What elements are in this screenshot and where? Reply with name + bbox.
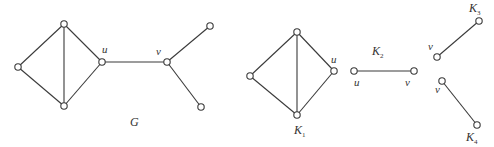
vertex-k1_bottom (294, 112, 300, 118)
vertex-k2_v (411, 68, 417, 74)
graph-label-subscript: 2 (380, 52, 384, 60)
vertex-k2_u (351, 68, 357, 74)
graph-label-K2: K2 (371, 44, 384, 60)
graph-label-subscript: 3 (477, 9, 481, 17)
vertex-k3_top (476, 18, 482, 24)
edge-g_v-g_tr (167, 26, 210, 62)
vertex-label-k4_v: v (435, 83, 440, 95)
edge-k3_v-k3_top (437, 21, 479, 57)
graph-label-main: G (130, 115, 139, 129)
vertex-k4_bottom (474, 122, 480, 128)
graph-label-G: G (130, 115, 139, 129)
graph-label-K1: K1 (293, 123, 306, 139)
vertex-g_left (15, 64, 21, 70)
vertex-label-k3_v: v (428, 40, 433, 52)
vertex-g_tr (207, 23, 213, 29)
graph-label-K4: K4 (465, 130, 478, 146)
vertex-label-g_v: v (156, 45, 161, 57)
vertex-label-k1_u: u (331, 53, 337, 65)
vertex-k1_top (294, 29, 300, 35)
edge-k4_v-k4_bottom (442, 81, 477, 125)
graph-label-subscript: 4 (474, 138, 478, 146)
vertex-g_bottom (61, 103, 67, 109)
nodes-layer (15, 18, 482, 128)
graph-diagram: uvGuK1uvK2vK3vK4 (0, 0, 494, 147)
graph-label-subscript: 1 (302, 131, 306, 139)
vertex-g_v (164, 59, 170, 65)
edge-k1_left-k1_top (250, 32, 297, 76)
edge-k1_top-k1_u (297, 32, 334, 71)
edge-k1_left-k1_bottom (250, 76, 297, 115)
edge-g_bottom-g_u (64, 62, 102, 106)
vertex-k1_u (331, 68, 337, 74)
edge-g_top-g_u (64, 24, 102, 62)
vertex-label-k2_u: u (354, 76, 360, 88)
edge-g_left-g_top (18, 24, 64, 67)
vertex-label-k2_v: v (405, 76, 410, 88)
vertex-g_u (99, 59, 105, 65)
vertex-g_br (198, 104, 204, 110)
edge-k1_bottom-k1_u (297, 71, 334, 115)
edge-g_v-g_br (167, 62, 201, 107)
edge-g_left-g_bottom (18, 67, 64, 106)
vertex-k3_v (434, 54, 440, 60)
vertex-label-g_u: u (102, 43, 108, 55)
vertex-k1_left (247, 73, 253, 79)
vertex-g_top (61, 21, 67, 27)
labels-layer: uvGuK1uvK2vK3vK4 (102, 1, 481, 146)
graph-label-K3: K3 (468, 1, 481, 17)
